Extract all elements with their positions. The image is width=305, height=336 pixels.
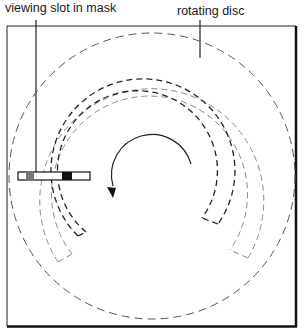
diagram-canvas <box>0 0 305 336</box>
rotation-arrow-icon <box>107 134 191 198</box>
viewing-slot <box>18 172 90 180</box>
inner-black-track <box>51 79 235 236</box>
